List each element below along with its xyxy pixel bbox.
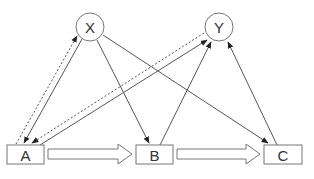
- node-a-label: A: [20, 147, 30, 164]
- edge-x-to-c: [103, 35, 268, 143]
- block-arrow-a-to-b: [48, 144, 132, 164]
- edge-b-to-y: [160, 42, 211, 145]
- node-x: X: [76, 13, 104, 41]
- node-y: Y: [205, 13, 233, 41]
- block-arrow-b-to-c: [177, 144, 260, 164]
- edge-x-to-b: [97, 40, 149, 143]
- edge-x-to-a: [24, 39, 82, 143]
- edge-a-to-y: [40, 40, 207, 145]
- edge-c-to-y: [228, 42, 277, 145]
- node-b: B: [136, 145, 173, 164]
- causal-diagram: X Y A B C: [0, 0, 314, 179]
- node-x-label: X: [85, 19, 95, 36]
- node-b-label: B: [149, 147, 159, 164]
- node-a: A: [7, 145, 44, 164]
- node-c-label: C: [278, 147, 289, 164]
- edge-y-to-a: [32, 33, 204, 143]
- node-c: C: [264, 145, 302, 164]
- node-y-label: Y: [214, 19, 224, 36]
